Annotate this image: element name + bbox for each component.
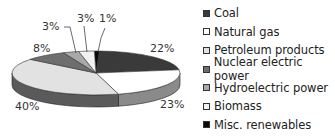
legend-swatch xyxy=(203,10,210,17)
label-nuclear: 8% xyxy=(33,42,50,55)
legend-label: Hydroelectric power xyxy=(214,81,328,95)
pie-top-slices xyxy=(12,51,180,95)
legend-label: Natural gas xyxy=(214,25,279,39)
legend-swatch xyxy=(203,28,210,35)
label-hydro: 3% xyxy=(42,20,59,33)
legend-swatch xyxy=(203,66,210,73)
label-petroleum: 40% xyxy=(15,100,39,113)
legend: Coal Natural gas Petroleum products Nucl… xyxy=(203,4,335,134)
label-biomass: 3% xyxy=(77,12,94,25)
leader-lines xyxy=(64,26,105,53)
legend-item-nuclear: Nuclear electric power xyxy=(203,60,335,79)
legend-item-hydro: Hydroelectric power xyxy=(203,78,335,97)
legend-label: Nuclear electric power xyxy=(214,55,335,83)
legend-label: Coal xyxy=(214,6,239,20)
legend-item-misc: Misc. renewables xyxy=(203,116,335,135)
label-misc: 1% xyxy=(99,12,116,25)
legend-label: Misc. renewables xyxy=(214,118,311,132)
legend-item-coal: Coal xyxy=(203,4,335,23)
legend-swatch xyxy=(203,121,210,128)
legend-swatch xyxy=(203,84,210,91)
legend-label: Biomass xyxy=(214,99,262,113)
legend-item-biomass: Biomass xyxy=(203,97,335,116)
legend-item-natural-gas: Natural gas xyxy=(203,23,335,42)
legend-swatch xyxy=(203,103,210,110)
legend-swatch xyxy=(203,47,210,54)
label-coal: 22% xyxy=(150,42,174,55)
label-natural-gas: 23% xyxy=(160,98,184,111)
